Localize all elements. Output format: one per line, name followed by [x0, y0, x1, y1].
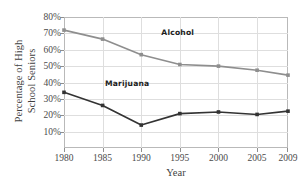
y-tick-label: 20%: [28, 110, 61, 120]
x-tick-label: 1985: [83, 152, 123, 164]
data-point-marker: [255, 68, 259, 72]
y-tick-label: 70%: [28, 28, 61, 38]
y-tick-mark: [60, 17, 64, 18]
data-point-marker: [178, 63, 182, 67]
y-tick-label: 50%: [28, 61, 61, 71]
data-point-marker: [178, 112, 182, 116]
x-axis-tick-labels: 1980198519901995200020052009: [64, 152, 288, 166]
y-axis-tick-labels: 10%20%30%40%50%60%70%80%: [28, 11, 61, 151]
data-point-marker: [286, 73, 290, 77]
data-point-marker: [255, 113, 259, 117]
data-point-marker: [286, 109, 290, 113]
y-tick-mark: [60, 132, 64, 133]
series-label-marijuana: Marijuana: [105, 79, 150, 88]
y-tick-mark: [60, 99, 64, 100]
data-point-marker: [62, 91, 66, 95]
y-tick-mark: [60, 83, 64, 84]
series-label-alcohol: Alcohol: [161, 28, 194, 37]
y-axis-title-line-1: Percentage of High: [12, 40, 25, 123]
y-tick-mark: [60, 66, 64, 67]
chart-figure: Percentage of High School Seniors 10%20%…: [0, 0, 304, 182]
plot-area: AlcoholMarijuana: [64, 17, 288, 148]
y-tick-label: 60%: [28, 45, 61, 55]
y-tick-mark: [60, 33, 64, 34]
x-tick-label: 2009: [268, 152, 304, 164]
data-point-marker: [139, 123, 143, 127]
x-tick-label: 2000: [198, 152, 238, 164]
y-tick-mark: [60, 115, 64, 116]
data-point-marker: [101, 104, 105, 108]
x-tick-label: 1990: [121, 152, 161, 164]
y-tick-mark: [60, 50, 64, 51]
y-tick-label: 10%: [28, 127, 61, 137]
x-tick-label: 1980: [44, 152, 84, 164]
data-point-marker: [62, 28, 66, 32]
x-axis-title: Year: [64, 166, 288, 179]
y-tick-label: 80%: [28, 12, 61, 22]
y-tick-label: 30%: [28, 94, 61, 104]
series-line-marijuana: [64, 92, 288, 125]
chart-title: [0, 0, 304, 2]
data-point-marker: [139, 53, 143, 57]
data-point-marker: [101, 37, 105, 41]
data-point-marker: [217, 64, 221, 68]
data-point-marker: [217, 110, 221, 114]
x-tick-label: 1995: [160, 152, 200, 164]
y-tick-label: 40%: [28, 78, 61, 88]
